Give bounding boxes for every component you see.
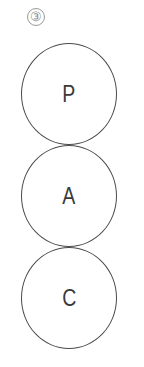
figure-number-label: ③ (27, 8, 45, 26)
circle-node-p: P (21, 43, 117, 145)
node-letter: C (62, 285, 76, 312)
circle-node-a: A (21, 145, 117, 247)
node-letter: A (62, 183, 75, 210)
node-letter: P (62, 81, 75, 108)
circle-node-c: C (21, 247, 117, 349)
